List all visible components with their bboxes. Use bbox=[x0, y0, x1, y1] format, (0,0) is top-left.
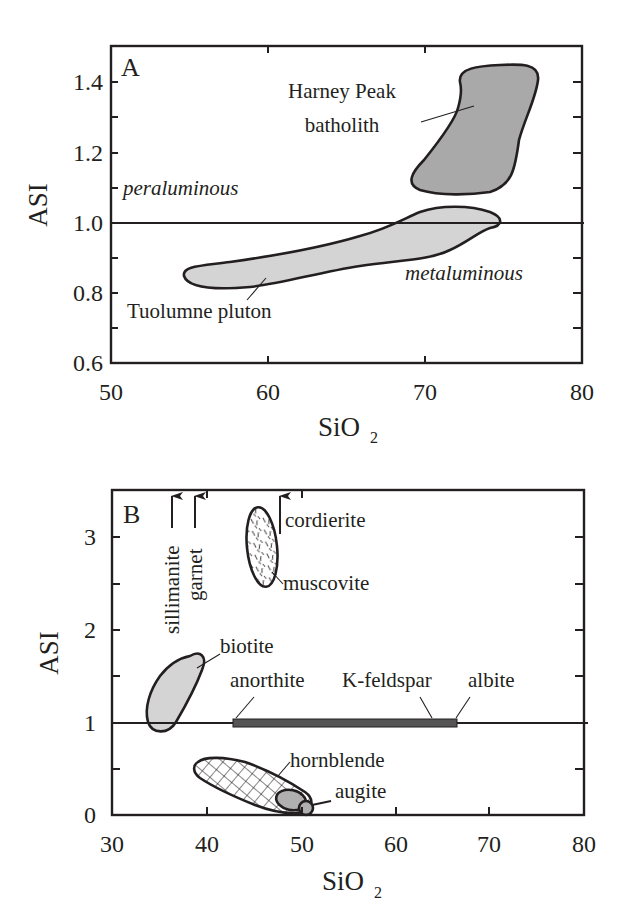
x-axis-title-b: SiO 2 bbox=[322, 866, 382, 901]
x-tick-label: 60 bbox=[384, 831, 408, 857]
y-tick-label: 3 bbox=[84, 524, 96, 550]
panel-b: 3 2 1 0 30 40 50 60 70 80 ASI SiO 2 B si… bbox=[34, 490, 596, 901]
augite-label: augite bbox=[335, 779, 386, 803]
panel-a: 1.4 1.2 1.0 0.8 0.6 50 60 70 80 ASI SiO … bbox=[23, 46, 594, 446]
x-tick-labels-a: 50 60 70 80 bbox=[99, 379, 594, 405]
y-axis-title-a: ASI bbox=[23, 183, 53, 227]
x-tick-label: 50 bbox=[290, 831, 314, 857]
x-axis-title-main: SiO bbox=[322, 866, 364, 896]
hornblende-label: hornblende bbox=[290, 748, 384, 772]
albite-label: albite bbox=[468, 668, 515, 692]
y-tick-label: 1.0 bbox=[73, 210, 103, 236]
x-tick-label: 70 bbox=[413, 379, 437, 405]
hornblende-leader bbox=[278, 762, 290, 776]
x-tick-labels-b: 30 40 50 60 70 80 bbox=[100, 831, 596, 857]
x-tick-label: 70 bbox=[477, 831, 501, 857]
x-tick-label: 80 bbox=[570, 379, 594, 405]
x-tick-label: 80 bbox=[572, 831, 596, 857]
cordierite-label: cordierite bbox=[285, 508, 365, 532]
anorthite-label: anorthite bbox=[230, 668, 305, 692]
harney-peak-label-line1: Harney Peak bbox=[288, 79, 396, 103]
x-axis-title-main: SiO bbox=[318, 412, 360, 442]
y-axis-title-b: ASI bbox=[34, 631, 64, 675]
y-tick-label: 0.6 bbox=[73, 350, 103, 376]
feldspar-bar bbox=[233, 719, 457, 727]
y-tick-label: 0.8 bbox=[73, 280, 103, 306]
panel-letter-b: B bbox=[123, 500, 140, 529]
biotite-region bbox=[147, 654, 204, 732]
y-tick-label: 2 bbox=[84, 617, 96, 643]
y-tick-labels-a: 1.4 1.2 1.0 0.8 0.6 bbox=[73, 69, 103, 376]
metaluminous-label: metaluminous bbox=[405, 261, 523, 285]
anorthite-leader bbox=[236, 697, 254, 718]
biotite-label: biotite bbox=[220, 634, 274, 658]
y-tick-labels-b: 3 2 1 0 bbox=[84, 524, 96, 828]
x-tick-label: 40 bbox=[195, 831, 219, 857]
y-tick-label: 1.2 bbox=[73, 140, 103, 166]
figure: 1.4 1.2 1.0 0.8 0.6 50 60 70 80 ASI SiO … bbox=[0, 0, 624, 918]
x-tick-label: 60 bbox=[256, 379, 280, 405]
peraluminous-label: peraluminous bbox=[121, 176, 239, 200]
panel-letter-a: A bbox=[121, 53, 140, 82]
sillimanite-label: sillimanite bbox=[160, 545, 184, 634]
x-axis-title-a: SiO 2 bbox=[318, 412, 378, 446]
k-feldspar-label: K-feldspar bbox=[342, 668, 432, 692]
augite-leader bbox=[312, 801, 331, 805]
y-tick-label: 1 bbox=[84, 710, 96, 736]
x-tick-label: 50 bbox=[99, 379, 123, 405]
x-tick-label: 30 bbox=[100, 831, 124, 857]
x-axis-title-subscript: 2 bbox=[370, 429, 378, 446]
harney-peak-region bbox=[411, 65, 538, 195]
tuolumne-pluton-label: Tuolumne pluton bbox=[127, 299, 272, 323]
x-axis-title-subscript: 2 bbox=[374, 884, 382, 901]
albite-leader bbox=[456, 697, 470, 718]
muscovite-label: muscovite bbox=[283, 571, 369, 595]
k-feldspar-leader bbox=[420, 697, 432, 718]
y-tick-label: 0 bbox=[84, 802, 96, 828]
y-tick-label: 1.4 bbox=[73, 69, 103, 95]
garnet-label: garnet bbox=[183, 548, 207, 601]
harney-peak-label-line2: batholith bbox=[305, 113, 380, 137]
